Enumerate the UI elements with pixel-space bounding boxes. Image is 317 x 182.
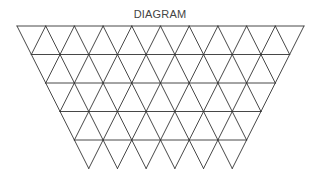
triangle-edge <box>117 55 131 84</box>
triangle-edge <box>17 26 31 55</box>
triangle-edge <box>31 55 45 84</box>
triangle-edge <box>74 26 88 55</box>
triangle-edge <box>275 55 289 84</box>
triangle-edge <box>89 112 103 141</box>
triangle-edge <box>232 55 246 84</box>
triangle-edge <box>146 140 160 169</box>
triangle-edge <box>232 140 246 169</box>
triangle-edge <box>132 55 146 84</box>
triangle-edge <box>161 140 175 169</box>
triangle-edge <box>290 26 304 55</box>
triangle-edge <box>103 140 117 169</box>
triangle-edge <box>189 26 203 55</box>
triangle-edge <box>189 55 203 84</box>
triangle-edge <box>89 55 103 84</box>
triangle-edge <box>46 26 60 55</box>
triangle-edge <box>103 55 117 84</box>
triangle-edge <box>218 140 232 169</box>
triangle-edge <box>117 83 131 112</box>
triangle-edge <box>204 83 218 112</box>
triangle-edge <box>232 83 246 112</box>
triangle-edge <box>132 83 146 112</box>
triangle-edge <box>218 112 232 141</box>
triangle-edge <box>232 112 246 141</box>
triangle-edge <box>261 83 275 112</box>
triangle-edge <box>161 55 175 84</box>
triangle-edge <box>261 26 275 55</box>
triangle-edge <box>74 83 88 112</box>
triangle-edge <box>46 83 60 112</box>
triangle-edge <box>74 140 88 169</box>
triangle-edge <box>103 112 117 141</box>
triangle-edge <box>60 83 74 112</box>
triangle-edge <box>89 83 103 112</box>
triangle-edge <box>261 55 275 84</box>
triangle-edge <box>175 112 189 141</box>
triangle-edge <box>232 26 246 55</box>
triangle-edge <box>132 26 146 55</box>
triangle-edge <box>189 112 203 141</box>
triangle-edge <box>175 26 189 55</box>
triangle-edge <box>60 26 74 55</box>
triangle-edge <box>218 26 232 55</box>
triangle-edge <box>46 55 60 84</box>
triangle-edge <box>204 26 218 55</box>
triangle-edge <box>103 83 117 112</box>
triangle-edge <box>204 140 218 169</box>
triangle-edge <box>204 55 218 84</box>
triangle-edge <box>175 83 189 112</box>
triangle-edge <box>132 140 146 169</box>
triangle-edge <box>175 140 189 169</box>
triangle-edge <box>31 26 45 55</box>
triangle-edge <box>117 112 131 141</box>
triangle-edge <box>204 112 218 141</box>
triangle-edge <box>247 83 261 112</box>
triangle-edge <box>74 112 88 141</box>
triangle-edge <box>146 83 160 112</box>
triangle-edge <box>74 55 88 84</box>
triangle-edge <box>247 55 261 84</box>
triangle-edge <box>146 55 160 84</box>
triangle-edge <box>161 83 175 112</box>
triangle-edge <box>146 26 160 55</box>
triangle-edge <box>146 112 160 141</box>
triangle-edge <box>189 140 203 169</box>
triangle-edge <box>218 83 232 112</box>
triangle-edge <box>175 55 189 84</box>
triangle-edge <box>132 112 146 141</box>
triangle-edge <box>103 26 117 55</box>
triangle-edge <box>161 26 175 55</box>
triangle-edge <box>117 140 131 169</box>
triangle-edge <box>247 112 261 141</box>
triangle-edge <box>60 55 74 84</box>
triangle-edge <box>60 112 74 141</box>
triangle-edge <box>247 26 261 55</box>
triangle-edge <box>89 26 103 55</box>
triangle-edge <box>161 112 175 141</box>
triangle-edge <box>218 55 232 84</box>
triangle-edge <box>117 26 131 55</box>
triangle-edge <box>189 83 203 112</box>
triangle-grid-diagram <box>0 0 317 182</box>
triangle-edge <box>275 26 289 55</box>
triangle-edge <box>89 140 103 169</box>
